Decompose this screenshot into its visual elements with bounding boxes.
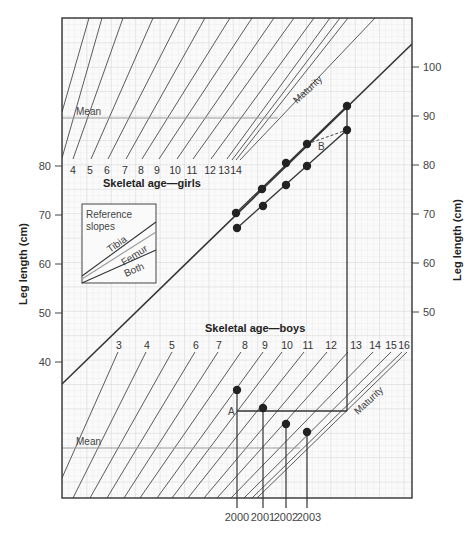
svg-text:11: 11 <box>303 339 314 351</box>
left-tick-80: 80 <box>39 160 51 172</box>
right-tick-50: 50 <box>423 306 435 318</box>
leg-length-chart: Reference slopes Tibia Femur Both 80 70 … <box>0 0 474 534</box>
boys-section-title: Skeletal age—boys <box>205 322 305 334</box>
year-labels: 2000 2001 2002 2003 <box>225 511 321 523</box>
svg-text:6: 6 <box>104 164 110 176</box>
svg-text:16: 16 <box>398 339 410 351</box>
svg-text:5: 5 <box>87 164 93 176</box>
right-axis-title: Leg length (cm) <box>451 199 463 281</box>
left-tick-40: 40 <box>39 356 51 368</box>
reference-title-line2: slopes <box>86 221 115 232</box>
svg-text:14: 14 <box>369 339 381 351</box>
svg-text:4: 4 <box>144 339 150 351</box>
left-tick-50: 50 <box>39 307 51 319</box>
annotation-b: B <box>318 141 325 152</box>
svg-text:2001: 2001 <box>251 511 275 523</box>
svg-text:7: 7 <box>216 339 222 351</box>
svg-text:13: 13 <box>350 339 362 351</box>
svg-text:10: 10 <box>169 164 181 176</box>
svg-text:13: 13 <box>218 164 230 176</box>
svg-text:8: 8 <box>138 164 144 176</box>
svg-text:10: 10 <box>281 339 293 351</box>
girls-section-title: Skeletal age—girls <box>103 177 201 189</box>
svg-text:9: 9 <box>262 339 268 351</box>
right-tick-70: 70 <box>423 208 435 220</box>
right-tick-80: 80 <box>423 159 435 171</box>
left-axis-title: Leg length (cm) <box>17 223 29 305</box>
left-tick-70: 70 <box>39 209 51 221</box>
svg-text:9: 9 <box>154 164 160 176</box>
svg-text:2002: 2002 <box>274 511 298 523</box>
left-axis <box>55 166 62 362</box>
right-tick-90: 90 <box>423 110 435 122</box>
annotation-a: A <box>228 406 235 417</box>
svg-text:5: 5 <box>169 339 175 351</box>
right-tick-100: 100 <box>423 61 441 73</box>
girls-mean-label: Mean <box>76 106 101 117</box>
boys-mean-label: Mean <box>76 436 101 447</box>
right-axis <box>412 67 419 312</box>
svg-text:14: 14 <box>230 164 242 176</box>
svg-text:12: 12 <box>204 164 216 176</box>
svg-text:12: 12 <box>325 339 337 351</box>
svg-text:8: 8 <box>242 339 248 351</box>
svg-text:2003: 2003 <box>297 511 321 523</box>
svg-text:2000: 2000 <box>225 511 249 523</box>
svg-text:6: 6 <box>193 339 199 351</box>
right-tick-60: 60 <box>423 257 435 269</box>
reference-title-line1: Reference <box>86 209 133 220</box>
svg-text:7: 7 <box>122 164 128 176</box>
svg-text:15: 15 <box>385 339 397 351</box>
svg-text:11: 11 <box>187 164 198 176</box>
svg-text:3: 3 <box>116 339 122 351</box>
left-tick-60: 60 <box>39 258 51 270</box>
svg-text:4: 4 <box>70 164 76 176</box>
reference-slopes-inset: Reference slopes Tibia Femur Both <box>82 204 156 283</box>
